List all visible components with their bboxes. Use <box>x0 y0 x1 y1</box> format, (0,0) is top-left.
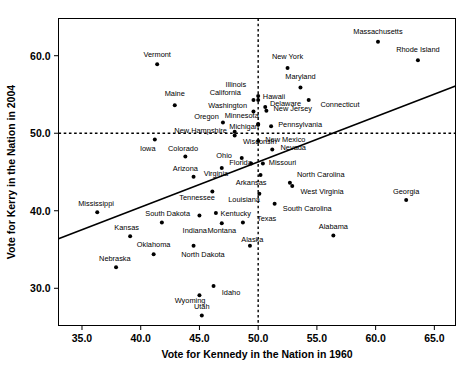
data-point[interactable]: New York <box>272 52 304 70</box>
data-point[interactable]: North Dakota <box>181 244 225 259</box>
data-point-marker[interactable] <box>212 284 216 288</box>
data-point[interactable]: Idaho <box>212 284 241 297</box>
data-point-label: Kentucky <box>221 209 252 218</box>
data-point-marker[interactable] <box>197 213 201 217</box>
data-point-marker[interactable] <box>264 109 268 113</box>
data-point[interactable]: Arkansas <box>236 173 267 187</box>
data-point[interactable]: Virginia <box>204 166 229 178</box>
data-point[interactable]: Connecticut <box>307 98 360 109</box>
data-point[interactable]: West Virginia <box>290 184 344 196</box>
data-point-label: Georgia <box>393 187 420 196</box>
data-point[interactable]: South Dakota <box>145 209 201 218</box>
data-point-marker[interactable] <box>259 173 263 177</box>
data-point-marker[interactable] <box>152 252 156 256</box>
data-point-label: Montana <box>207 226 237 235</box>
data-point-label: Vermont <box>143 50 171 59</box>
data-point-marker[interactable] <box>269 124 273 128</box>
data-point-label: Virginia <box>204 169 229 178</box>
data-point[interactable]: Georgia <box>393 187 420 202</box>
data-point[interactable]: Louisiana <box>228 192 261 204</box>
data-point-label: Texas <box>257 214 277 223</box>
data-point-marker[interactable] <box>404 198 408 202</box>
data-point-label: Oklahoma <box>137 240 172 249</box>
data-point-marker[interactable] <box>251 98 255 102</box>
data-point[interactable]: Indiana <box>160 220 208 234</box>
data-point[interactable]: Alaska <box>241 235 264 248</box>
y-axis-tick-label: 60.0 <box>30 50 51 62</box>
data-point[interactable]: Kentucky <box>214 209 251 218</box>
data-point[interactable]: Massachusetts <box>353 27 403 44</box>
data-point[interactable]: Tennessee <box>179 189 215 202</box>
data-point[interactable]: Maryland <box>285 72 315 89</box>
data-point-marker[interactable] <box>290 184 294 188</box>
data-point-marker[interactable] <box>128 234 132 238</box>
data-point-marker[interactable] <box>263 105 267 109</box>
data-point-marker[interactable] <box>114 265 118 269</box>
data-point[interactable]: Kansas <box>114 223 139 239</box>
data-point-marker[interactable] <box>95 210 99 214</box>
data-point-marker[interactable] <box>261 161 265 165</box>
data-point-label: South Dakota <box>145 209 191 218</box>
data-point-label: Utah <box>194 302 210 311</box>
data-point[interactable]: Vermont <box>143 50 171 66</box>
data-point-marker[interactable] <box>173 103 177 107</box>
data-point-marker[interactable] <box>214 211 218 215</box>
data-point-marker[interactable] <box>153 137 157 141</box>
data-point-marker[interactable] <box>248 244 252 248</box>
data-point-marker[interactable] <box>233 130 237 134</box>
data-point[interactable]: Maine <box>165 89 185 107</box>
data-point-marker[interactable] <box>376 40 380 44</box>
data-point-marker[interactable] <box>256 98 260 102</box>
data-point-marker[interactable] <box>155 62 159 66</box>
data-point[interactable]: Colorado <box>168 144 198 159</box>
data-point-marker[interactable] <box>286 66 290 70</box>
data-point-marker[interactable] <box>192 244 196 248</box>
data-point[interactable]: South Carolina <box>273 202 333 213</box>
data-point[interactable]: Rhode Island <box>396 45 440 62</box>
data-point-label: Florida <box>229 158 252 167</box>
data-point-marker[interactable] <box>160 220 164 224</box>
data-point-label: Oregon <box>194 112 219 121</box>
data-point-marker[interactable] <box>298 85 302 89</box>
data-point-label: South Carolina <box>283 204 333 213</box>
data-point-marker[interactable] <box>331 234 335 238</box>
data-point-marker[interactable] <box>183 154 187 158</box>
data-point[interactable]: Iowa <box>140 137 157 152</box>
scatter-plot-canvas: 35.040.045.050.055.060.065.030.040.050.0… <box>0 0 469 373</box>
data-point-label: Minnesota <box>225 111 260 120</box>
data-point-marker[interactable] <box>221 120 225 124</box>
data-point[interactable]: Michigan <box>229 122 260 131</box>
data-point[interactable]: Oklahoma <box>137 240 172 256</box>
x-axis-tick-label: 50.0 <box>248 332 269 344</box>
data-point[interactable]: Utah <box>194 302 210 317</box>
data-point-marker[interactable] <box>200 313 204 317</box>
data-point-marker[interactable] <box>270 148 274 152</box>
data-point[interactable]: Pennsylvania <box>269 120 323 129</box>
data-point-marker[interactable] <box>192 175 196 179</box>
data-point[interactable]: California <box>210 88 256 102</box>
data-point-marker[interactable] <box>256 94 260 98</box>
data-point[interactable]: Florida <box>229 158 253 167</box>
data-point-marker[interactable] <box>233 134 237 138</box>
data-point-label: Alaska <box>241 235 264 244</box>
data-point-label: Washington <box>208 101 247 110</box>
data-point[interactable]: North Carolina <box>288 170 346 185</box>
data-point-label: Pennsylvania <box>278 120 323 129</box>
data-point-marker[interactable] <box>220 221 224 225</box>
data-point-marker[interactable] <box>241 220 245 224</box>
data-point-marker[interactable] <box>273 202 277 206</box>
data-point-label: Rhode Island <box>396 45 440 54</box>
data-point[interactable]: Montana <box>207 221 237 235</box>
data-point-marker[interactable] <box>416 58 420 62</box>
x-axis-tick-label: 45.0 <box>189 332 210 344</box>
y-axis-tick-label: 50.0 <box>30 127 51 139</box>
x-axis-tick-label: 55.0 <box>307 332 328 344</box>
data-point[interactable]: Nebraska <box>99 254 132 270</box>
data-point[interactable]: Arizona <box>173 164 199 179</box>
data-point-label: Connecticut <box>320 100 359 109</box>
data-point[interactable]: Oregon <box>194 112 225 125</box>
data-point-marker[interactable] <box>307 98 311 102</box>
x-axis-tick-label: 35.0 <box>72 332 93 344</box>
data-point[interactable]: Mississippi <box>78 199 114 215</box>
data-point[interactable]: Alabama <box>319 222 349 238</box>
